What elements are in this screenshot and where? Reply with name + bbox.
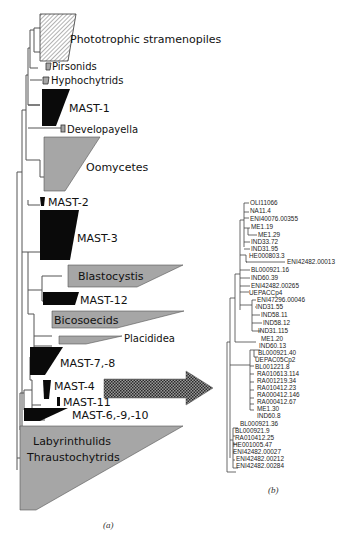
clade-oomycetes: Oomycetes [44, 137, 149, 191]
leaf: BL000921.9 [235, 427, 270, 434]
leaf: ME1.29 [258, 231, 280, 238]
tree-b-leaves: OLI11066 NA11.4 ENI40076.00355 ME1.19 ME… [233, 199, 335, 469]
clade-blastocystis: Blastocystis [68, 265, 183, 287]
leaf: ENI42482.00212 [236, 455, 284, 462]
leaf: ENI42482.00027 [233, 448, 281, 455]
leaf: RA000412.67 [257, 398, 297, 405]
svg-text:Placididea: Placididea [124, 333, 175, 344]
leaf: IND58.11 [261, 311, 288, 318]
clade-labyrinthulids-thraustochytrids: Labyrinthulids Thraustochytrids [20, 426, 183, 510]
leaf: ENI42482.00013 [287, 258, 335, 265]
clade-mast-2: MAST-2 [40, 196, 89, 209]
svg-text:Developayella: Developayella [67, 124, 138, 135]
svg-text:MAST-7,-8: MAST-7,-8 [60, 357, 115, 370]
svg-text:Labyrinthulids: Labyrinthulids [33, 435, 111, 448]
leaf: IND60.8 [257, 412, 281, 419]
leaf: NA11.4 [250, 207, 271, 214]
leaf: IND60.13 [259, 342, 286, 349]
leaf: RA000412.146 [257, 391, 300, 398]
leaf: IND60.39 [251, 274, 278, 281]
svg-text:Hyphochytrids: Hyphochytrids [51, 75, 123, 86]
leaf: RA010613.114 [257, 370, 300, 377]
leaf: ENI47296.00046 [257, 296, 305, 303]
leaf: RA001219.34 [257, 377, 297, 384]
svg-text:Bicosoecids: Bicosoecids [54, 314, 119, 327]
clade-mast-7-8: MAST-7,-8 [30, 347, 115, 375]
svg-text:MAST-6,-9,-10: MAST-6,-9,-10 [72, 409, 149, 422]
leaf: IND33.72 [251, 238, 278, 245]
leaf: IND31.115 [258, 327, 289, 334]
leaf: BL000921.40 [258, 349, 296, 356]
leaf: HE001005.47 [233, 441, 273, 448]
clade-developayella: Developayella [61, 124, 138, 135]
svg-text:MAST-12: MAST-12 [80, 294, 128, 307]
svg-text:MAST-3: MAST-3 [77, 232, 118, 245]
leaf: ME1.20 [261, 335, 283, 342]
svg-text:MAST-2: MAST-2 [48, 196, 89, 209]
svg-text:MAST-1: MAST-1 [69, 102, 110, 115]
leaf: ENI40076.00355 [250, 215, 298, 222]
svg-text:Phototrophic stramenopiles: Phototrophic stramenopiles [70, 33, 222, 46]
svg-text:MAST-11: MAST-11 [63, 396, 111, 409]
panel-b-label: (b) [268, 485, 279, 495]
leaf: OLI11066 [250, 199, 278, 206]
leaf: ENI42482.00265 [251, 282, 299, 289]
clade-mast-3: MAST-3 [40, 210, 118, 260]
clade-mast-1: MAST-1 [42, 89, 110, 126]
clade-mast-11: MAST-11 [57, 396, 111, 409]
svg-text:Blastocystis: Blastocystis [78, 270, 144, 283]
expansion-arrow [104, 371, 213, 405]
leaf: IND31.55 [256, 303, 283, 310]
leaf: ENI42482.00284 [236, 462, 284, 469]
svg-text:Oomycetes: Oomycetes [86, 161, 149, 174]
phylogeny-figure: Phototrophic stramenopiles Pirsonids Hyp… [0, 0, 361, 540]
leaf: BL000921.16 [251, 266, 289, 273]
svg-text:Pirsonids: Pirsonids [52, 61, 97, 72]
leaf: ME1.19 [251, 223, 273, 230]
svg-text:MAST-4: MAST-4 [54, 380, 95, 393]
leaf: IND58.12 [263, 319, 290, 326]
leaf: IND31.95 [251, 245, 278, 252]
leaf: ME1.30 [257, 405, 279, 412]
leaf: HE000803.3 [249, 252, 285, 259]
leaf: RA010412.23 [257, 384, 297, 391]
leaf: RA010412.25 [235, 434, 275, 441]
clade-phototrophic-stramenopiles: Phototrophic stramenopiles [40, 14, 222, 61]
clade-hyphochytrids: Hyphochytrids [43, 75, 123, 86]
leaf: BL000921.36 [240, 420, 278, 427]
clade-pirsonids: Pirsonids [46, 61, 97, 72]
leaf: BL001221.8 [255, 363, 290, 370]
panel-a-label: (a) [103, 520, 114, 530]
svg-text:Thraustochytrids: Thraustochytrids [26, 451, 120, 464]
clade-mast-12: MAST-12 [43, 292, 128, 307]
clade-placididea: Placididea [59, 333, 175, 344]
clade-bicosoecids: Bicosoecids [52, 311, 184, 328]
